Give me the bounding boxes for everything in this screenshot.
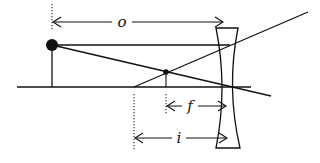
concave-lens-ray-diagram: o f i [0, 0, 320, 163]
image-distance-arrow: i [135, 129, 227, 147]
chief-ray [52, 45, 271, 96]
object-distance-label: o [117, 13, 126, 31]
object-distance-arrow: o [53, 13, 223, 31]
image-distance-label: i [177, 129, 182, 147]
focal-length-arrow: f [167, 97, 226, 115]
